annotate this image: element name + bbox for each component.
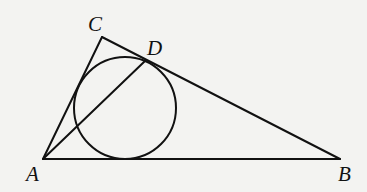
geometry-figure: A B C D — [0, 0, 367, 192]
label-c: C — [88, 12, 103, 36]
label-b: B — [338, 162, 351, 186]
segment-ac — [43, 37, 102, 159]
label-a: A — [24, 162, 39, 186]
segment-ad — [43, 61, 145, 159]
segment-cb — [102, 37, 340, 159]
diagram-canvas: A B C D — [0, 0, 367, 192]
circle — [74, 57, 176, 159]
label-d: D — [146, 36, 162, 60]
